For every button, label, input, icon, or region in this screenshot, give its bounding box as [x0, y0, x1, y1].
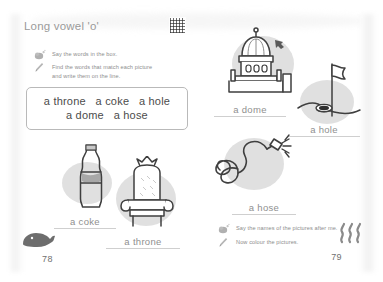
word-box-line-2: a dome a hose — [33, 108, 181, 122]
instruction-say-words: Say the words in the box. — [34, 50, 117, 61]
instruction-text: Find the words that match each picture a… — [52, 63, 152, 80]
word-box: a throne a coke a hole a dome a hose — [26, 87, 188, 130]
page-number-right: 79 — [331, 252, 342, 262]
answer-throne: a throne — [106, 236, 180, 249]
answer-hose: a hose — [232, 202, 296, 215]
hose-icon — [210, 130, 306, 204]
instruction-text: Say the words in the box. — [52, 50, 117, 59]
picture-hose: a hose — [210, 130, 310, 222]
listen-icon — [34, 49, 46, 60]
pencil-icon — [34, 62, 46, 73]
left-page: Long vowel 'o' Say the words in the box. — [16, 12, 192, 274]
page-title: Long vowel 'o' — [24, 20, 99, 32]
golf-hole-icon — [290, 60, 366, 130]
instruction-colour: Now colour the pictures. — [218, 238, 298, 249]
word-box-line-1: a throne a coke a hole — [33, 94, 181, 108]
instruction-text: Now colour the pictures. — [236, 238, 298, 247]
throne-icon — [116, 156, 178, 234]
qr-code-icon[interactable] — [169, 17, 186, 34]
right-page: a dome a hole — [196, 12, 368, 274]
whale-icon — [20, 228, 56, 254]
answer-dome: a dome — [214, 104, 286, 117]
picture-throne: a throne — [108, 156, 190, 234]
listen-icon — [218, 223, 230, 234]
picture-hole: a hole — [294, 60, 374, 138]
pencil-icon — [218, 237, 230, 248]
page-number-left: 78 — [42, 254, 53, 264]
worksheet-spread: Long vowel 'o' Say the words in the box. — [0, 0, 383, 282]
instruction-say-names: Say the names of the pictures after me. — [218, 224, 338, 235]
answer-coke: a coke — [54, 216, 116, 229]
instruction-find-words: Find the words that match each picture a… — [34, 63, 152, 80]
instruction-text: Say the names of the pictures after me. — [236, 224, 338, 233]
coke-bottle-icon — [74, 142, 108, 212]
steam-icon — [336, 222, 364, 248]
